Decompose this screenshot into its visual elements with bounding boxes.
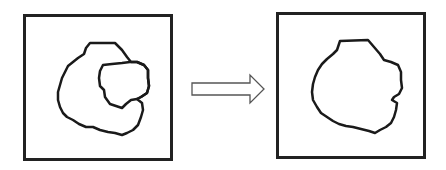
diagram-canvas <box>0 0 446 170</box>
after-blob-outline <box>312 40 402 133</box>
right-arrow-icon <box>192 75 264 103</box>
